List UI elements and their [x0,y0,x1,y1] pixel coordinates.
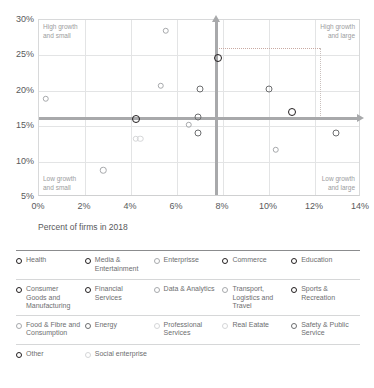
legend-row: Food & Fibre and ConsumptionEnergyProfes… [16,315,360,344]
scatter-chart: High growth and small High growth and la… [0,0,374,240]
quadrant-label-top-left: High growth and small [43,23,78,40]
legend-label: Energy [95,321,117,330]
data-point[interactable] [288,108,296,116]
legend-label: Media & Entertainment [95,256,150,273]
legend-item[interactable]: Social enterprise [85,350,154,359]
y-axis-tick-label: 15% [0,120,34,130]
legend-row: OtherSocial enterprise [16,344,360,373]
reference-line-dotted-vertical [320,48,321,117]
legend-label: Health [26,256,46,265]
data-point[interactable] [197,86,204,93]
legend-item[interactable]: Energy [85,321,154,330]
chart-legend: HealthMedia & EntertainmentEnterprisseCo… [16,250,360,373]
legend-marker-circle-icon [222,323,228,329]
gridline-vertical [177,20,178,195]
data-point[interactable] [194,130,201,137]
x-axis-tick-label: 2% [77,201,90,211]
gridline-vertical [223,20,224,195]
data-point[interactable] [332,130,339,137]
legend-item[interactable]: Food & Fibre and Consumption [16,321,85,338]
legend-item[interactable]: Media & Entertainment [85,256,154,273]
legend-marker-circle-icon [291,287,297,293]
legend-marker-circle-icon [291,323,297,329]
gridline-vertical [131,20,132,195]
data-point[interactable] [185,122,192,129]
quadrant-label-bottom-right: Low growth and large [322,175,355,192]
mean-line-vertical-arrow [212,15,220,22]
legend-label: Financial Services [95,285,150,302]
data-point[interactable] [43,95,50,102]
legend-marker-circle-icon [16,323,22,329]
data-point[interactable] [162,27,169,34]
plot-area: High growth and small High growth and la… [38,19,360,196]
legend-marker-circle-icon [154,287,160,293]
legend-label: Social enterprise [95,350,147,359]
legend-marker-circle-icon [85,258,91,264]
mean-line-horizontal-arrow [357,114,364,122]
legend-label: Enterprisse [164,256,199,265]
gridline-vertical [269,20,270,195]
gridline-vertical [315,20,316,195]
legend-marker-circle-icon [16,287,22,293]
data-point[interactable] [137,136,144,143]
data-point[interactable] [214,54,222,62]
y-axis-tick-label: 5% [0,191,34,201]
legend-item[interactable]: Data & Analytics [154,285,223,294]
legend-item[interactable]: Enterprisse [154,256,223,265]
legend-item[interactable]: Safety & Public Service [291,321,360,338]
quadrant-label-bottom-left: Low growth and small [43,175,76,192]
legend-marker-circle-icon [222,287,228,293]
data-point[interactable] [194,113,201,120]
legend-label: Education [301,256,332,265]
data-point[interactable] [158,83,165,90]
gridline-horizontal [39,55,359,56]
legend-marker-circle-icon [291,258,297,264]
x-axis-tick-label: 8% [215,201,228,211]
legend-marker-circle-icon [222,258,228,264]
legend-label: Sports & Recreation [301,285,356,302]
gridline-horizontal [39,126,359,127]
legend-item[interactable]: Commerce [222,256,291,265]
legend-marker-circle-icon [85,287,91,293]
x-axis-tick-label: 4% [123,201,136,211]
legend-item[interactable]: Education [291,256,360,265]
data-point[interactable] [132,115,140,123]
y-axis-tick-label: 10% [0,156,34,166]
legend-label: Real Eatate [232,321,269,330]
legend-marker-circle-icon [16,352,22,358]
y-axis-tick-label: 20% [0,85,34,95]
gridline-vertical [85,20,86,195]
legend-item[interactable]: Transport, Logistics and Travel [222,285,291,311]
legend-label: Other [26,350,44,359]
y-axis-tick-label: 30% [0,14,34,24]
legend-row: Consumer Goods and ManufacturingFinancia… [16,279,360,315]
reference-line-dotted-horizontal [216,48,320,49]
data-point[interactable] [273,146,280,153]
legend-item[interactable]: Health [16,256,85,265]
legend-item[interactable]: Real Eatate [222,321,291,330]
legend-item[interactable]: Financial Services [85,285,154,302]
legend-marker-circle-icon [154,323,160,329]
x-axis-tick-label: 10% [259,201,277,211]
y-axis-tick-label: 25% [0,49,34,59]
quadrant-label-top-right: High growth and large [320,23,355,40]
x-axis-tick-label: 12% [305,201,323,211]
legend-item[interactable]: Other [16,350,85,359]
data-point[interactable] [100,167,107,174]
legend-label: Food & Fibre and Consumption [26,321,81,338]
legend-label: Data & Analytics [164,285,215,294]
x-axis-tick-label: 0% [31,201,44,211]
legend-label: Consumer Goods and Manufacturing [26,285,81,311]
legend-label: Transport, Logistics and Travel [232,285,287,311]
legend-row: HealthMedia & EntertainmentEnterprisseCo… [16,250,360,279]
x-axis-tick-label: 14% [351,201,369,211]
x-axis-title: Percent of firms in 2018 [38,222,128,232]
gridline-horizontal [39,162,359,163]
mean-line-vertical [215,20,218,195]
data-point[interactable] [266,86,273,93]
legend-item[interactable]: Sports & Recreation [291,285,360,302]
legend-marker-circle-icon [154,258,160,264]
legend-item[interactable]: Professional Services [154,321,223,338]
legend-label: Commerce [232,256,266,265]
legend-item[interactable]: Consumer Goods and Manufacturing [16,285,85,311]
